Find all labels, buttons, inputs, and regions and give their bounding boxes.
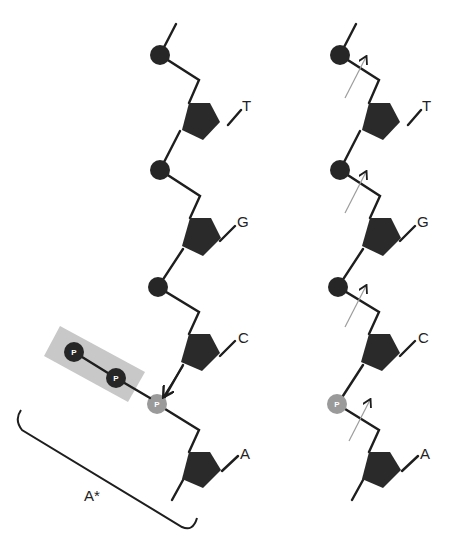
base-label-c: C (418, 329, 429, 346)
base-label-g: G (237, 213, 249, 230)
pyrophosphate-group: P P (44, 326, 150, 402)
base-label-a: A (240, 445, 250, 462)
left-base-stubs (220, 110, 241, 471)
dna-diagram: P T G C A P P A* P (0, 0, 451, 545)
direction-arrow-icon (345, 172, 366, 213)
phosphate-icon (330, 160, 350, 180)
sugar-pentagon-icon (362, 452, 401, 488)
sugar-pentagon-icon (181, 334, 220, 371)
phosphate-label: P (154, 400, 160, 409)
right-strand: P T G C A (327, 24, 431, 500)
phosphate-icon (150, 160, 170, 180)
sugar-pentagon-icon (361, 334, 400, 371)
sugar-pentagon-icon (362, 218, 401, 256)
pyrophosphate-label-1: P (71, 348, 77, 357)
phosphate-icon (330, 45, 350, 65)
sugar-pentagon-icon (362, 103, 400, 140)
right-base-stubs (400, 110, 421, 471)
base-label-g: G (417, 213, 429, 230)
sugar-pentagon-icon (182, 103, 220, 140)
phosphate-label: P (334, 400, 340, 409)
phosphate-icon (328, 277, 348, 297)
phosphate-icon (150, 45, 170, 65)
pyrophosphate-label-2: P (113, 374, 119, 383)
left-strand: P T G C A P P A* (18, 24, 251, 528)
direction-arrow-icon (345, 57, 366, 98)
base-label-a: A (420, 445, 430, 462)
sugar-pentagon-icon (182, 452, 221, 488)
base-label-t: T (242, 97, 251, 114)
right-backbone (337, 24, 380, 500)
incoming-nucleotide-label: A* (84, 487, 100, 504)
base-label-c: C (238, 329, 249, 346)
bond-formation-arrow (164, 366, 183, 396)
direction-arrow-icon (349, 400, 370, 441)
incoming-nucleotide-bracket (18, 410, 197, 528)
phosphate-icon (148, 277, 168, 297)
base-label-t: T (422, 97, 431, 114)
sugar-pentagon-icon (182, 218, 221, 256)
